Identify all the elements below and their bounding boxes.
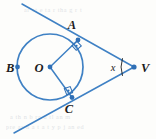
point-label-O: O	[34, 61, 43, 75]
point-label-A: A	[67, 18, 76, 32]
point-dot-A	[76, 38, 81, 43]
right-angle-dot-at-A	[76, 45, 78, 47]
tangent-line-through-C	[14, 67, 134, 133]
segment-OC-radius	[50, 67, 72, 98]
angle-label-x: x	[110, 62, 116, 73]
point-dot-V	[131, 64, 136, 69]
geometry-figure: ar st e ta r tha g r t a th n b ra u tl …	[0, 0, 156, 139]
point-label-V: V	[141, 61, 151, 75]
point-dot-C	[70, 95, 75, 100]
diagram-canvas: A B C O V x	[0, 0, 156, 139]
point-label-C: C	[65, 102, 74, 116]
point-dot-O	[48, 65, 53, 70]
point-dot-B	[15, 65, 20, 70]
point-label-B: B	[5, 61, 14, 75]
right-angle-dot-at-C	[67, 90, 69, 92]
